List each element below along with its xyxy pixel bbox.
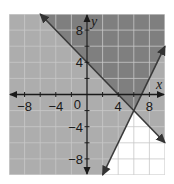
y-axis-label: y bbox=[89, 14, 98, 29]
origin-label: 0 bbox=[74, 97, 81, 112]
x-tick-label: −8 bbox=[17, 99, 32, 114]
x-axis-label: x bbox=[155, 77, 163, 92]
y-tick-label: −4 bbox=[68, 120, 83, 135]
x-tick-label: 4 bbox=[115, 99, 122, 114]
inequality-graph: −8−44884−4−80xy bbox=[0, 0, 174, 184]
y-tick-label: 4 bbox=[76, 55, 83, 70]
y-tick-label: 8 bbox=[76, 23, 83, 38]
x-tick-label: −4 bbox=[48, 99, 63, 114]
y-tick-label: −8 bbox=[68, 152, 83, 167]
x-tick-label: 8 bbox=[146, 99, 153, 114]
